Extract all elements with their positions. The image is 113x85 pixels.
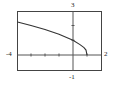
y-min-label: -1 <box>69 74 75 81</box>
x-max-label: 2 <box>104 51 108 58</box>
graph-window <box>0 0 113 85</box>
y-max-label: 3 <box>71 2 75 9</box>
viewing-window-frame <box>18 12 102 71</box>
function-curve <box>18 22 88 55</box>
x-min-label: -4 <box>6 51 12 58</box>
